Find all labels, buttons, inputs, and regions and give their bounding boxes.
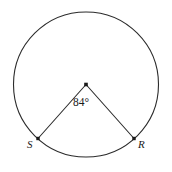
- central-angle-label: 84°: [73, 97, 89, 109]
- geometry-figure: 84° S R: [0, 0, 172, 172]
- circle-diagram-canvas: [0, 0, 172, 172]
- point-r-marker: [132, 137, 135, 140]
- point-r-label: R: [138, 139, 145, 150]
- center-point-marker: [84, 83, 88, 87]
- point-s-label: S: [27, 139, 33, 150]
- point-s-marker: [36, 137, 39, 140]
